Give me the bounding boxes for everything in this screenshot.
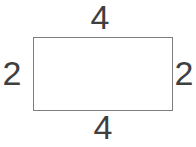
rectangle-shape (33, 37, 173, 111)
left-side-length-label: 2 (1, 56, 23, 90)
right-side-length-label: 2 (173, 56, 195, 90)
bottom-side-length-label: 4 (92, 110, 114, 144)
geometry-diagram: 4 4 2 2 (0, 0, 196, 147)
top-side-length-label: 4 (89, 0, 111, 34)
